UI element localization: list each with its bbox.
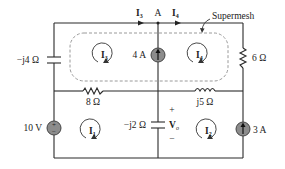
label-supermesh: Supermesh: [212, 11, 254, 21]
label-mesh-i3: I3: [101, 50, 108, 61]
pointer-arrow-icon: [200, 28, 205, 33]
circuit-diagram: + − −j4 Ω 6 Ω 8 Ω j5 Ω −j2 Ω 10 V 4 A 3 …: [0, 0, 285, 169]
label-mesh-i4: I4: [196, 50, 203, 61]
label-vo: Vo: [169, 120, 179, 131]
label-vo-plus: +: [169, 105, 174, 115]
resistor-8ohm: [83, 88, 103, 94]
label-isrc-4a: 4 A: [133, 50, 147, 60]
label-i4-branch: I4: [172, 8, 179, 19]
label-i3-branch: I3: [136, 8, 143, 19]
voltage-source-10v: + −: [47, 121, 61, 136]
supermesh-pointer: [202, 19, 210, 30]
capacitor-left: [47, 57, 61, 63]
arrow-i4-icon: [175, 21, 181, 26]
resistor-6ohm: [240, 48, 246, 68]
label-cap-left: −j4 Ω: [17, 55, 39, 65]
arrow-i3-icon: [138, 21, 144, 26]
label-mesh-i1: I1: [89, 126, 96, 137]
label-node-a: A: [155, 8, 162, 18]
inductor-j5: [195, 89, 215, 92]
label-vo-minus: −: [169, 134, 174, 144]
current-source-4a: [151, 48, 165, 62]
current-source-3a: [236, 122, 250, 136]
label-vsrc: 10 V: [23, 123, 42, 133]
label-inductor: j5 Ω: [196, 97, 214, 107]
capacitor-center: [151, 122, 165, 128]
label-res-6ohm: 6 Ω: [252, 53, 266, 63]
label-isrc-3a: 3 A: [253, 125, 267, 135]
node-a-dot: [157, 22, 160, 25]
label-cap-center: −j2 Ω: [124, 120, 146, 130]
label-mesh-i2: I2: [205, 126, 212, 137]
supermesh-boundary: [70, 33, 228, 81]
vsrc-minus: −: [52, 128, 56, 136]
label-res-8ohm: 8 Ω: [86, 97, 100, 107]
